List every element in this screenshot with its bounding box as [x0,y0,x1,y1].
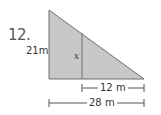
full-base-label: 28 m [87,97,117,108]
triangle-diagram [0,0,161,115]
x-label: x [74,51,79,61]
height-label: 21m [26,45,48,56]
right-triangle [49,10,144,79]
partial-base-label: 12 m [98,82,128,93]
